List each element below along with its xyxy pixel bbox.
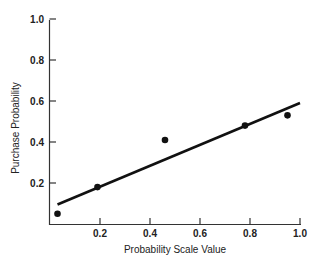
x-tick-label: 0.4 [143, 228, 157, 239]
y-tick-label: 0.6 [30, 96, 44, 107]
regression-line [58, 103, 301, 204]
fitted-line [58, 103, 301, 204]
data-point [94, 184, 101, 191]
x-tick-label: 0.2 [93, 228, 107, 239]
y-ticks: 0.20.40.60.81.0 [30, 14, 56, 189]
chart: 0.20.40.60.81.0 0.20.40.60.81.0 Probabil… [0, 0, 318, 266]
y-axis-label: Purchase Probability [10, 82, 21, 174]
x-tick-label: 0.8 [243, 228, 257, 239]
y-tick-label: 0.2 [30, 178, 44, 189]
x-ticks: 0.20.40.60.81.0 [93, 218, 307, 239]
y-tick-label: 0.4 [30, 137, 44, 148]
x-axis-label: Probability Scale Value [124, 244, 227, 255]
axes [50, 20, 302, 225]
y-tick-label: 0.8 [30, 55, 44, 66]
y-tick-label: 1.0 [30, 14, 44, 25]
data-points [54, 112, 291, 217]
data-point [284, 112, 291, 119]
data-point [162, 137, 169, 144]
data-point [54, 210, 61, 217]
data-point [242, 122, 249, 129]
x-tick-label: 0.6 [193, 228, 207, 239]
x-tick-label: 1.0 [293, 228, 307, 239]
